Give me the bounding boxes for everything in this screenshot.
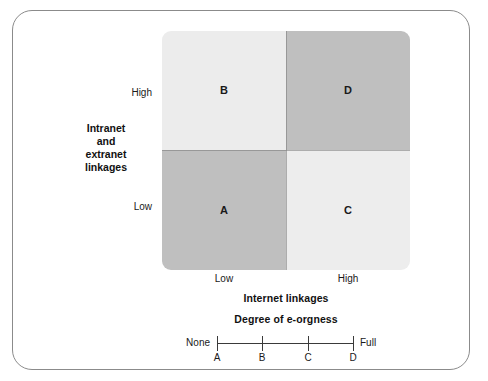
figure-root: B D A C Intranet and extranet linkages H… [0, 0, 488, 381]
matrix-quadrant-b[interactable]: B [162, 31, 286, 150]
matrix-quadrant-a-label: A [220, 205, 228, 216]
y-axis-tick-low: Low [108, 201, 152, 213]
y-axis-title-line-2: and [58, 135, 154, 148]
scale-tick-a [217, 336, 218, 351]
matrix-quadrant-c[interactable]: C [286, 150, 410, 270]
scale-tick-label-a: A [205, 352, 229, 364]
e-orgness-scale: None Full A B C D [162, 330, 410, 370]
scale-tick-d [353, 336, 354, 351]
scale-tick-label-b: B [250, 352, 274, 364]
scale-tick-label-d: D [341, 352, 365, 364]
x-axis-title: Internet linkages [162, 292, 410, 304]
scale-title: Degree of e-orgness [162, 313, 410, 325]
matrix-horizontal-divider [162, 150, 410, 151]
y-axis-tick-high: High [108, 87, 152, 99]
scale-axis-line [217, 343, 353, 344]
y-axis-title-line-4: linkages [58, 161, 154, 174]
scale-start-label: None [166, 337, 210, 349]
y-axis-title-line-1: Intranet [58, 122, 154, 135]
scale-tick-c [308, 336, 309, 351]
matrix-quadrant-a[interactable]: A [162, 150, 286, 270]
scale-tick-b [262, 336, 263, 351]
matrix-quadrant-b-label: B [220, 85, 228, 96]
two-by-two-matrix: B D A C [162, 31, 410, 270]
x-axis-tick-low: Low [194, 273, 254, 285]
matrix-quadrant-d-label: D [344, 85, 352, 96]
matrix-quadrant-d[interactable]: D [286, 31, 410, 150]
matrix-quadrant-c-label: C [344, 205, 352, 216]
y-axis-title-line-3: extranet [58, 148, 154, 161]
scale-tick-label-c: C [296, 352, 320, 364]
scale-end-label: Full [360, 337, 404, 349]
x-axis-tick-high: High [318, 273, 378, 285]
y-axis-title: Intranet and extranet linkages [58, 122, 154, 174]
